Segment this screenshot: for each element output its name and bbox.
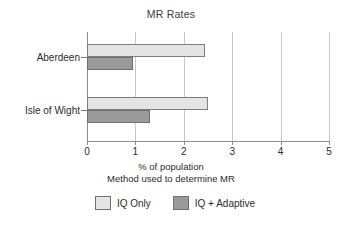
x-axis-label: % of population	[0, 161, 350, 172]
axis-x-line	[87, 141, 330, 142]
xtick-label-3: 3	[222, 146, 242, 157]
xtick-mark-5	[329, 141, 330, 145]
gridline-4	[281, 32, 282, 141]
legend-label-iq-only: IQ Only	[117, 198, 151, 209]
legend-label-iq-adaptive: IQ + Adaptive	[195, 198, 255, 209]
plot-area	[87, 32, 329, 141]
x-axis-sublabel: Method used to determine MR	[0, 173, 350, 184]
category-label-isle-of-wight: Isle of Wight	[0, 105, 80, 116]
xtick-label-1: 1	[125, 146, 145, 157]
xtick-mark-3	[232, 141, 233, 145]
xtick-label-5: 5	[319, 146, 339, 157]
legend-item-iq-only: IQ Only	[95, 196, 151, 210]
xtick-label-4: 4	[271, 146, 291, 157]
bar-isle-of-wight-iq-adaptive	[87, 110, 150, 123]
xtick-mark-0	[87, 141, 88, 145]
xtick-mark-4	[281, 141, 282, 145]
legend-item-iq-adaptive: IQ + Adaptive	[173, 196, 255, 210]
chart-legend: IQ Only IQ + Adaptive	[0, 196, 350, 210]
category-label-aberdeen: Aberdeen	[0, 52, 80, 63]
bar-aberdeen-iq-adaptive	[87, 57, 133, 70]
xtick-label-2: 2	[174, 146, 194, 157]
chart-title: MR Rates	[0, 8, 350, 20]
xtick-label-0: 0	[77, 146, 97, 157]
bar-aberdeen-iq-only	[87, 44, 205, 57]
legend-swatch-icon-iq-only	[95, 196, 111, 210]
gridline-3	[232, 32, 233, 141]
xtick-mark-2	[184, 141, 185, 145]
legend-swatch-icon-iq-adaptive	[173, 196, 189, 210]
chart-title-text: MR Rates	[147, 8, 195, 20]
xtick-mark-1	[135, 141, 136, 145]
bar-isle-of-wight-iq-only	[87, 97, 208, 110]
gridline-5	[329, 32, 330, 141]
